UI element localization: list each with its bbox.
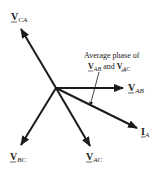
phasor-v-bc (21, 88, 56, 145)
annotation-line-2: VAB and VAC (88, 62, 131, 72)
annotation-line-1: Average phase of (84, 51, 140, 60)
phasor-diagram: VCA VAB IA VAC VBC Average phase of VAB … (0, 0, 158, 172)
phasor-v-ca (21, 29, 56, 88)
